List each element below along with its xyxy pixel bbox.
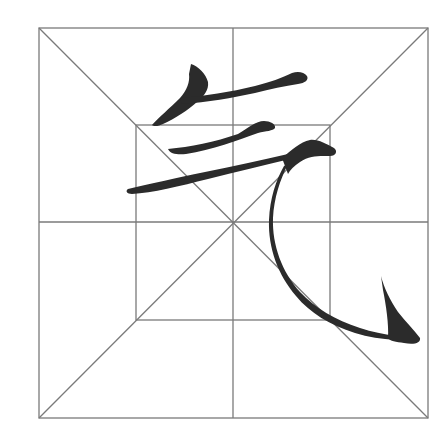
grid (39, 28, 428, 418)
calligraphy-practice-grid (0, 0, 442, 445)
character-qi (127, 64, 421, 344)
stroke-gou-hook (381, 276, 420, 344)
stroke-wan-curve (269, 164, 395, 340)
stroke-heng-3 (127, 154, 290, 194)
stroke-heng-2 (168, 121, 275, 154)
stroke-pie (152, 64, 208, 126)
stroke-zhe-head (282, 140, 336, 174)
